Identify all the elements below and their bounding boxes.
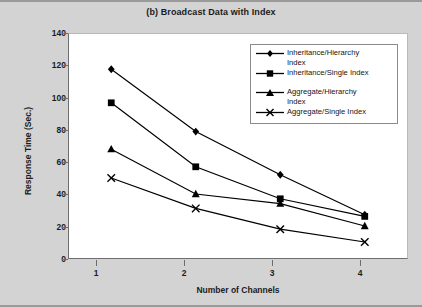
chart-page: (b) Broadcast Data with Index 140 120 10… [0, 0, 422, 307]
data-point [107, 174, 115, 182]
data-point [277, 171, 284, 179]
y-tick-label-0: 0 [26, 254, 66, 264]
y-tick-label-120: 120 [26, 60, 66, 70]
legend-label-line1: Inheritance/Single Index [285, 68, 368, 78]
legend-label: Inheritance/Hierarchy Index [285, 48, 359, 67]
x-tick-mark-1 [96, 260, 97, 266]
x-tick-label-4: 4 [345, 268, 375, 278]
legend-item-aggregate-single: Aggregate/Single Index [255, 107, 393, 118]
legend-label-line1: Aggregate/Hierarchy [285, 87, 357, 97]
legend-label-line1: Aggregate/Single Index [285, 107, 366, 117]
legend-label: Aggregate/Single Index [285, 107, 366, 117]
data-point [192, 128, 199, 136]
legend-item-aggregate-hierarchy: Aggregate/Hierarchy Index [255, 87, 393, 106]
data-point [192, 190, 200, 197]
x-tick-mark-4 [360, 260, 361, 266]
chart-title: (b) Broadcast Data with Index [0, 7, 422, 17]
data-point [361, 213, 368, 220]
chart-legend: Inheritance/Hierarchy Index Inheritance/… [250, 44, 398, 124]
data-point [108, 99, 115, 106]
y-axis-title: Response Time (Sec.) [23, 71, 33, 231]
legend-label-line2: Index [285, 58, 359, 68]
y-tick-mark-0 [62, 259, 68, 260]
legend-label-line2: Index [285, 97, 357, 107]
legend-label: Aggregate/Hierarchy Index [285, 87, 357, 106]
x-marker-icon [255, 107, 285, 118]
triangle-marker-icon [255, 87, 285, 98]
legend-spacer [255, 80, 393, 87]
square-marker-icon [255, 68, 285, 79]
x-tick-label-2: 2 [169, 268, 199, 278]
legend-label: Inheritance/Single Index [285, 68, 368, 78]
diamond-marker-icon [255, 48, 285, 59]
legend-item-inheritance-hierarchy: Inheritance/Hierarchy Index [255, 48, 393, 67]
x-tick-label-3: 3 [257, 268, 287, 278]
x-tick-label-1: 1 [81, 268, 111, 278]
series-3 [107, 174, 368, 246]
legend-label-line1: Inheritance/Hierarchy [285, 48, 359, 58]
data-point [192, 205, 200, 213]
x-tick-mark-3 [272, 260, 273, 266]
x-tick-mark-2 [184, 260, 185, 266]
y-tick-label-140: 140 [26, 28, 66, 38]
data-point [192, 163, 199, 170]
x-axis-title: Number of Channels [68, 285, 408, 295]
data-point [107, 145, 115, 152]
legend-item-inheritance-single: Inheritance/Single Index [255, 68, 393, 79]
data-point [108, 65, 115, 73]
series-2 [107, 145, 368, 229]
